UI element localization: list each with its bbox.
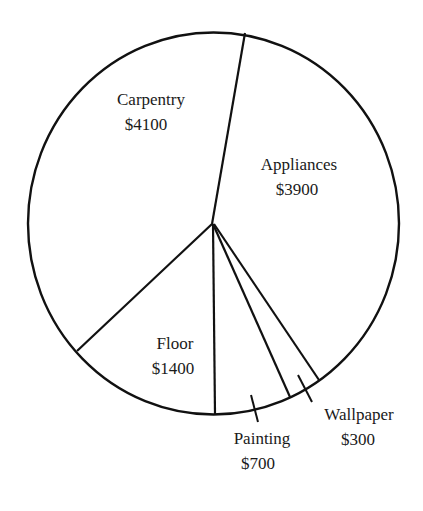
slice-label-floor: Floor $1400	[152, 334, 195, 378]
slice-label-appliances: Appliances $3900	[261, 155, 337, 199]
pie-chart: Carpentry $4100 Appliances $3900 Floor $…	[0, 0, 423, 511]
painting-value: $700	[241, 454, 275, 473]
appliances-name: Appliances	[261, 155, 337, 174]
carpentry-name: Carpentry	[117, 90, 185, 109]
boundary-floor-painting	[213, 224, 215, 414]
leader-ticks	[251, 375, 312, 422]
wallpaper-leader-tick	[298, 375, 312, 402]
wallpaper-value: $300	[341, 430, 375, 449]
painting-name: Painting	[234, 429, 291, 448]
appliances-value: $3900	[276, 180, 319, 199]
boundary-wallpaper-appliances	[214, 224, 319, 380]
slice-label-painting: Painting $700	[234, 429, 291, 473]
carpentry-value: $4100	[125, 115, 168, 134]
boundary-painting-wallpaper	[213, 224, 290, 397]
slice-label-wallpaper: Wallpaper $300	[324, 405, 394, 449]
slice-boundaries	[77, 33, 319, 414]
floor-name: Floor	[157, 334, 194, 353]
slice-label-carpentry: Carpentry $4100	[117, 90, 185, 134]
boundary-carpentry-appliances	[212, 33, 245, 224]
wallpaper-name: Wallpaper	[324, 405, 394, 424]
boundary-carpentry-floor	[77, 224, 212, 351]
floor-value: $1400	[152, 359, 195, 378]
